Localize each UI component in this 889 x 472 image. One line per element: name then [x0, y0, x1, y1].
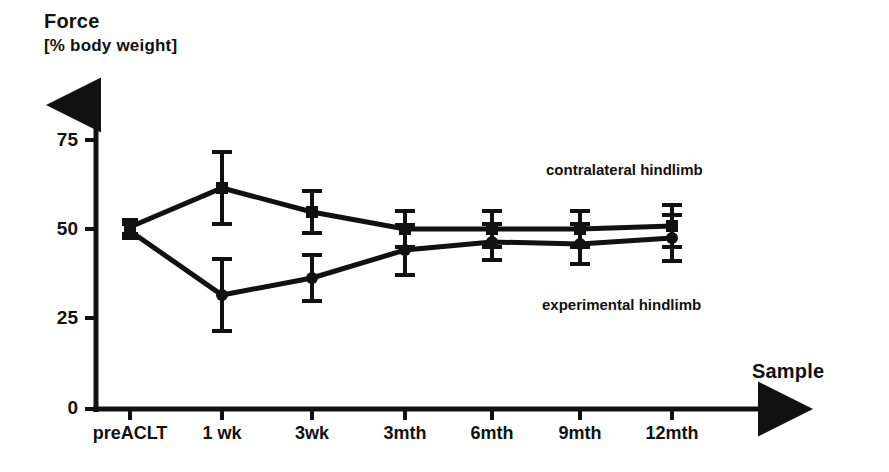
chart-canvas — [0, 0, 889, 472]
markers-experimental — [124, 225, 678, 301]
series-line-contralateral — [130, 188, 672, 229]
series-contralateral-hindlimb — [122, 152, 682, 247]
series-line-experimental — [130, 231, 672, 295]
force-line-chart: Force [% body weight] Sample 75 50 25 0 … — [0, 0, 889, 472]
